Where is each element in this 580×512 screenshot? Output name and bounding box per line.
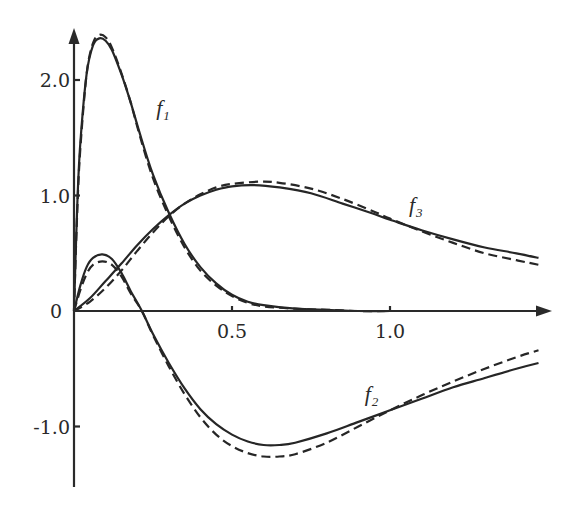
- curve-label-f3: f3: [409, 192, 423, 220]
- y-axis-arrow-icon: [69, 28, 80, 44]
- chart-axes: [69, 28, 553, 487]
- x-tick-label: 1.0: [375, 320, 405, 342]
- y-tick-label: 1.0: [40, 185, 70, 207]
- series-f2-dashed: [74, 261, 539, 457]
- series-f3-dashed: [74, 182, 539, 311]
- y-tick-label: 0: [50, 300, 62, 322]
- series-f2: [74, 254, 539, 445]
- y-tick-label: -1.0: [33, 416, 70, 438]
- axis-ticks: 0.51.02.01.00-1.0: [33, 69, 405, 438]
- curve-label-f2: f2: [365, 381, 379, 409]
- curve-labels: f1f3f2: [156, 95, 423, 409]
- x-tick-label: 0.5: [217, 320, 247, 342]
- x-axis-arrow-icon: [536, 306, 552, 317]
- curve-label-f1: f1: [156, 95, 170, 123]
- y-tick-label: 2.0: [40, 69, 70, 91]
- chart: 0.51.02.01.00-1.0 f1f3f2: [0, 0, 580, 512]
- chart-curves: [74, 35, 539, 457]
